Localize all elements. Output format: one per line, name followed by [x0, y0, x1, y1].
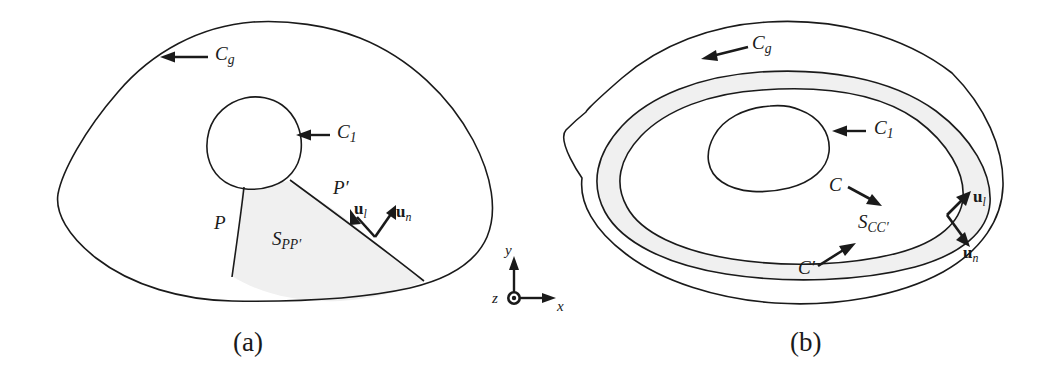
panel-a-label-un: un	[396, 203, 411, 220]
panel-b-label-ul: ul	[973, 188, 986, 205]
panel-a-label-p-prime: P′	[333, 178, 349, 197]
panel-a-label-c1-sub: 1	[350, 130, 357, 145]
axis-label-y: y	[505, 243, 512, 258]
panel-a-caption: (a)	[233, 329, 263, 356]
panel-b-label-un-sub: n	[972, 251, 978, 265]
panel-a-label-cg: Cg	[215, 44, 235, 63]
panel-a-arrow-cg	[160, 52, 208, 63]
panel-b-label-cg-sub: g	[765, 41, 772, 56]
panel-a-shaded-surface	[232, 181, 424, 301]
panel-a-label-c1-base: C	[337, 121, 350, 142]
panel-b-label-ul-sub: l	[982, 195, 985, 209]
panel-a-vector-un	[375, 205, 396, 237]
axis-label-x: x	[557, 299, 564, 314]
panel-b-arrow-c	[848, 187, 882, 206]
panel-a-label-un-sub: n	[405, 210, 411, 224]
panel-a-label-ul-sub: l	[363, 207, 366, 221]
panel-b-label-c: C	[829, 175, 842, 194]
panel-b-label-cg: Cg	[752, 33, 772, 52]
panel-b-label-c1: C1	[874, 118, 894, 137]
panel-b-inner-contour	[708, 106, 829, 192]
axis-label-z: z	[492, 291, 498, 306]
panel-a-inner-contour	[207, 97, 301, 189]
panel-a-label-c1: C1	[337, 122, 357, 141]
panel-b-label-surface-sub: CC′	[868, 220, 889, 235]
panel-b-label-surface: SCC′	[858, 212, 889, 231]
panel-b-label-cg-base: C	[752, 32, 765, 53]
panel-a-label-cg-base: C	[215, 43, 228, 64]
panel-b-label-c1-base: C	[874, 117, 887, 138]
figure-container: Cg C1 P P′ SPP′ ul un (a) Cg C1 C C′ SCC…	[0, 0, 1061, 383]
panel-b-caption: (b)	[790, 329, 821, 356]
panel-b-arrow-cg	[701, 47, 748, 61]
panel-b-label-un: un	[963, 244, 978, 261]
panel-a-label-cg-sub: g	[228, 52, 235, 67]
panel-b-label-surface-base: S	[858, 211, 868, 232]
panel-a-label-p: P	[214, 213, 226, 232]
coordinate-axes	[507, 256, 556, 305]
panel-b-label-c1-sub: 1	[887, 126, 894, 141]
panel-a-label-ul: ul	[354, 200, 367, 217]
panel-b-label-c-prime: C′	[798, 258, 815, 277]
panel-a-label-surface: SPP′	[272, 229, 301, 248]
figure-vector-graphics	[0, 0, 1061, 383]
panel-a-label-surface-base: S	[272, 228, 282, 249]
panel-a-label-surface-sub: PP′	[282, 237, 302, 252]
panel-b-arrow-c1	[832, 126, 866, 137]
